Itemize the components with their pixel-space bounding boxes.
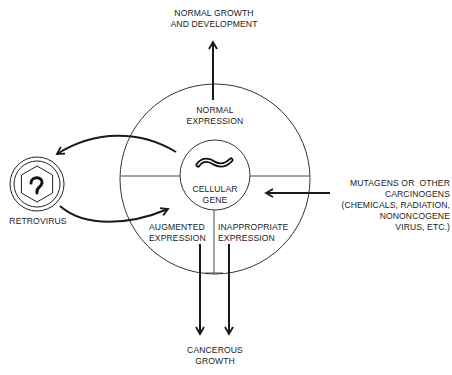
- mutagens-label: MUTAGENS OR OTHER CARCINOGENS (CHEMICALS…: [330, 178, 450, 233]
- inappropriate-expression-label: INAPPROPRIATE EXPRESSION: [218, 222, 288, 244]
- cancerous-growth-label: CANCEROUS GROWTH: [175, 345, 255, 367]
- cellular-gene-label: CELLULAR GENE: [180, 184, 250, 206]
- normal-expression-label: NORMAL EXPRESSION: [170, 105, 260, 127]
- retrovirus-label: RETROVIRUS: [0, 216, 76, 227]
- arrow-retrovirus-to-augmented: [60, 206, 168, 222]
- normal-growth-label: NORMAL GROWTH AND DEVELOPMENT: [160, 8, 268, 30]
- retrovirus-icon: [10, 157, 64, 211]
- arrow-gene-to-retrovirus: [57, 136, 176, 154]
- augmented-expression-label: AUGMENTED EXPRESSION: [149, 222, 206, 244]
